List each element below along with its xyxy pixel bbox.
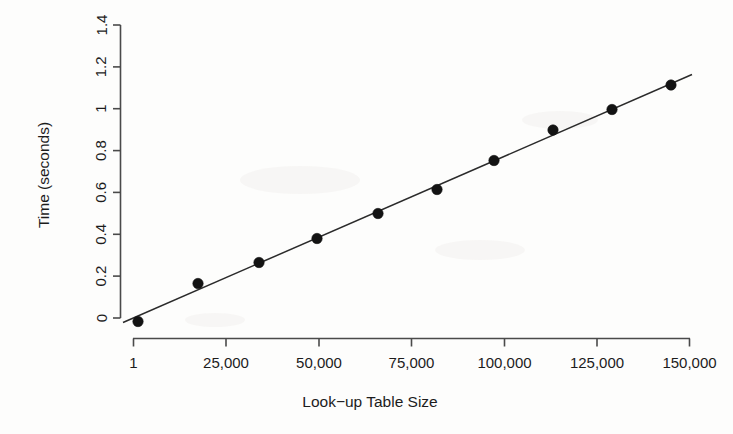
x-axis-tick-labels: 1 25,000 50,000 75,000 100,000 125,000 1… — [129, 354, 716, 371]
x-tick-label: 50,000 — [296, 354, 342, 371]
x-tick-label: 150,000 — [662, 354, 716, 371]
y-axis-tick-labels: 1.4 1.2 1 0.8 0.6 0.4 0.2 0 — [93, 15, 110, 323]
x-tick-label: 100,000 — [477, 354, 531, 371]
y-tick-label: 0.4 — [93, 224, 110, 245]
x-axis-title: Look−up Table Size — [302, 393, 437, 410]
x-axis-ticks — [134, 339, 690, 347]
y-tick-label: 0 — [93, 314, 110, 322]
x-axis: 1 25,000 50,000 75,000 100,000 125,000 1… — [129, 339, 716, 411]
y-axis-ticks — [113, 25, 121, 318]
paper-texture — [185, 111, 598, 327]
data-point — [666, 80, 676, 90]
y-tick-label: 1 — [93, 105, 110, 113]
data-point — [254, 257, 264, 267]
y-tick-label: 0.6 — [93, 182, 110, 203]
y-tick-label: 1.2 — [93, 56, 110, 77]
plot-area — [123, 75, 692, 327]
data-point — [432, 184, 442, 194]
x-tick-label: 25,000 — [203, 354, 249, 371]
data-point — [373, 208, 383, 218]
scatter-plot-svg: 1.4 1.2 1 0.8 0.6 0.4 0.2 0 Time (second… — [0, 0, 733, 434]
x-tick-label: 125,000 — [570, 354, 624, 371]
y-axis-title: Time (seconds) — [35, 122, 52, 228]
x-tick-label: 75,000 — [389, 354, 435, 371]
linear-fit-line — [123, 75, 692, 323]
y-tick-label: 0.2 — [93, 266, 110, 287]
data-point — [193, 278, 203, 288]
y-tick-label: 1.4 — [93, 15, 110, 36]
data-point — [133, 316, 143, 326]
data-point — [312, 233, 322, 243]
data-point — [548, 125, 558, 135]
data-point — [607, 104, 617, 114]
chart-figure: 1.4 1.2 1 0.8 0.6 0.4 0.2 0 Time (second… — [0, 0, 733, 434]
x-tick-label: 1 — [129, 354, 137, 371]
y-axis: 1.4 1.2 1 0.8 0.6 0.4 0.2 0 Time (second… — [35, 15, 121, 323]
data-point — [489, 155, 499, 165]
y-tick-label: 0.8 — [93, 140, 110, 161]
